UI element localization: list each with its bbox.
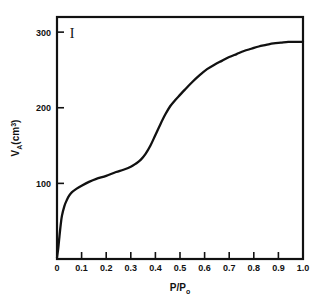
- x-axis-ticks: [57, 252, 303, 258]
- y-axis-title: VA(cm3): [10, 120, 23, 157]
- x-tick-label: 0.9: [272, 263, 285, 273]
- y-tick-label: 200: [36, 103, 51, 113]
- y-axis-tick-labels: 100200300: [36, 28, 51, 189]
- axis-frame-rect: [57, 17, 303, 259]
- isotherm-curve: [57, 42, 303, 258]
- chart-svg: 00.10.20.30.40.50.60.70.80.91.0 10020030…: [0, 0, 322, 302]
- x-axis-title: P/Po: [170, 282, 190, 295]
- x-tick-label: 1.0: [297, 263, 310, 273]
- x-axis-tick-labels: 00.10.20.30.40.50.60.70.80.91.0: [54, 263, 309, 273]
- svg-text:VA(cm3): VA(cm3): [10, 120, 23, 157]
- y-tick-label: 300: [36, 28, 51, 38]
- x-tick-label: 0: [54, 263, 59, 273]
- panel-label-I: I: [70, 26, 75, 41]
- x-tick-label: 0.2: [100, 263, 113, 273]
- x-tick-label: 0.4: [149, 263, 162, 273]
- y-tick-label: 100: [36, 179, 51, 189]
- y-axis-ticks: [58, 32, 64, 183]
- x-tick-label: 0.1: [75, 263, 88, 273]
- x-tick-label: 0.7: [223, 263, 236, 273]
- figure-container: 00.10.20.30.40.50.60.70.80.91.0 10020030…: [0, 0, 322, 302]
- x-tick-label: 0.6: [198, 263, 211, 273]
- plot-frame: [57, 17, 303, 259]
- x-tick-label: 0.8: [248, 263, 261, 273]
- x-tick-label: 0.3: [125, 263, 138, 273]
- x-tick-label: 0.5: [174, 263, 187, 273]
